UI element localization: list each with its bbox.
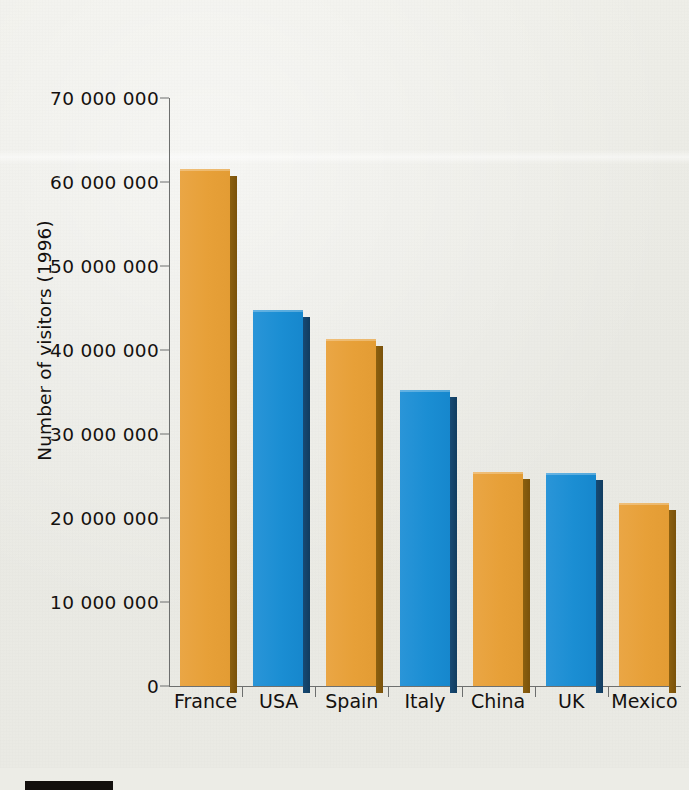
y-axis-tick-mark — [160, 518, 169, 519]
bottom-black-rule — [25, 781, 113, 790]
x-axis-tick-mark — [608, 686, 609, 697]
bar-face — [253, 310, 303, 686]
y-axis-tick-label: 20 000 000 — [50, 508, 159, 529]
bar-face — [619, 503, 669, 686]
bar-france — [180, 169, 230, 686]
bar-top-highlight — [326, 339, 376, 341]
bar-face — [546, 473, 596, 686]
x-axis-label-france: France — [169, 690, 242, 712]
bar-face — [473, 472, 523, 686]
x-axis-tick-mark — [242, 686, 243, 697]
x-axis-label-china: China — [462, 690, 535, 712]
bar-italy — [400, 390, 450, 686]
y-axis-tick-label: 30 000 000 — [50, 424, 159, 445]
bar-top-highlight — [619, 503, 669, 505]
bar-top-highlight — [473, 472, 523, 474]
y-axis-tick-labels: 010 000 00020 000 00030 000 00040 000 00… — [0, 0, 159, 768]
bar-usa — [253, 310, 303, 686]
y-axis-tick-mark — [160, 182, 169, 183]
bar-face — [180, 169, 230, 686]
x-axis-label-uk: UK — [535, 690, 608, 712]
y-axis-tick-label: 40 000 000 — [50, 340, 159, 361]
bar-shadow — [523, 479, 530, 693]
bar-shadow — [596, 480, 603, 693]
bar-china — [473, 472, 523, 686]
bar-top-highlight — [180, 169, 230, 171]
bar-shadow — [450, 397, 457, 693]
x-axis-label-italy: Italy — [388, 690, 461, 712]
y-axis-tick-label: 70 000 000 — [50, 88, 159, 109]
bar-spain — [326, 339, 376, 686]
x-axis-label-mexico: Mexico — [608, 690, 681, 712]
y-axis-tick-mark — [160, 686, 169, 687]
bar-uk — [546, 473, 596, 686]
x-axis-label-spain: Spain — [315, 690, 388, 712]
y-axis-line — [169, 98, 170, 687]
bar-shadow — [230, 176, 237, 693]
bar-top-highlight — [400, 390, 450, 392]
y-axis-tick-mark — [160, 350, 169, 351]
bar-top-highlight — [253, 310, 303, 312]
x-axis-tick-mark — [315, 686, 316, 697]
bar-mexico — [619, 503, 669, 686]
bar-chart: Number of visitors (1996) 010 000 00020 … — [0, 0, 689, 768]
x-axis-tick-mark — [388, 686, 389, 697]
x-axis-tick-mark — [462, 686, 463, 697]
x-axis-line — [169, 686, 681, 687]
bar-shadow — [303, 317, 310, 693]
y-axis-tick-mark — [160, 434, 169, 435]
x-axis-label-usa: USA — [242, 690, 315, 712]
y-axis-tick-label: 50 000 000 — [50, 256, 159, 277]
bar-shadow — [669, 510, 676, 693]
bar-face — [326, 339, 376, 686]
y-axis-tick-mark — [160, 266, 169, 267]
y-axis-tick-label: 60 000 000 — [50, 172, 159, 193]
y-axis-tick-mark — [160, 602, 169, 603]
bar-top-highlight — [546, 473, 596, 475]
y-axis-tick-label: 10 000 000 — [50, 592, 159, 613]
y-axis-tick-mark — [160, 98, 169, 99]
bar-face — [400, 390, 450, 686]
y-axis-tick-label: 0 — [147, 676, 159, 697]
x-axis-tick-mark — [535, 686, 536, 697]
bar-shadow — [376, 346, 383, 693]
